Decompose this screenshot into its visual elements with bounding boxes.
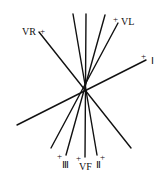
lead-i-line [17, 60, 146, 125]
axis-label: VR [22, 26, 36, 37]
axis-label: VF [79, 161, 92, 172]
plus-sign: + [113, 14, 118, 24]
plus-sign: + [40, 26, 45, 36]
axis-label: Ⅱ [96, 159, 101, 170]
axis-label: Ⅰ [151, 55, 154, 66]
plus-sign: + [141, 51, 146, 61]
plus-signs: ++++++ [40, 14, 146, 163]
axis-label: Ⅲ [62, 159, 69, 170]
axis-label: VL [121, 16, 134, 27]
hexaxial-diagram: ++++++ VRVLⅠⅢVFⅡ [0, 0, 165, 181]
axis-lines [17, 14, 146, 157]
